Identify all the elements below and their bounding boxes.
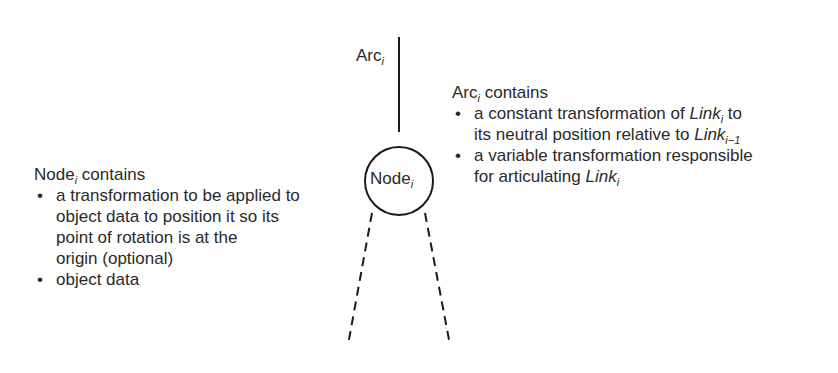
arc-label-text: Arc bbox=[356, 46, 382, 65]
arc-description: Arci contains a constant transformation … bbox=[452, 82, 753, 187]
arc-item2-link-sub: i bbox=[617, 176, 619, 188]
arc-description-item: a variable transformation responsible fo… bbox=[452, 145, 753, 187]
arc-description-list: a constant transformation of Linki to it… bbox=[452, 103, 753, 187]
arc-item2-line2-prefix: for articulating bbox=[474, 167, 586, 186]
node-title-text: Node bbox=[34, 165, 75, 184]
arc-item1-line1-suffix: to bbox=[723, 104, 742, 123]
arc-title-text: Arc bbox=[452, 83, 478, 102]
node-label: Nodei bbox=[370, 169, 413, 189]
node-description-item: a transformation to be applied to object… bbox=[34, 185, 300, 269]
arc-item1-line1-prefix: a constant transformation of bbox=[474, 104, 689, 123]
child-arc-left-dashed bbox=[348, 213, 372, 345]
node-label-text: Node bbox=[370, 169, 411, 188]
node-description-title: Nodei contains bbox=[34, 164, 300, 185]
arc-description-item: a constant transformation of Linki to it… bbox=[452, 103, 753, 145]
arc-item1-line2-link: Link bbox=[694, 125, 725, 144]
node-item2-line1: object data bbox=[56, 270, 139, 289]
arc-description-title: Arci contains bbox=[452, 82, 753, 103]
child-arc-right-dashed bbox=[425, 213, 450, 345]
node-item1-line4: origin (optional) bbox=[56, 249, 173, 268]
node-title-suffix: contains bbox=[77, 165, 145, 184]
node-item1-line1: a transformation to be applied to bbox=[56, 186, 300, 205]
arc-label-subscript: i bbox=[382, 55, 384, 67]
arc-item2-link: Link bbox=[586, 167, 617, 186]
arc-item1-link: Link bbox=[689, 104, 720, 123]
node-item1-line3: point of rotation is at the bbox=[56, 228, 237, 247]
arc-item1-line2-prefix: its neutral position relative to bbox=[474, 125, 694, 144]
arc-item2-line1: a variable transformation responsible bbox=[474, 146, 753, 165]
node-description: Nodei contains a transformation to be ap… bbox=[34, 164, 300, 290]
node-description-list: a transformation to be applied to object… bbox=[34, 185, 300, 290]
node-label-subscript: i bbox=[411, 178, 413, 190]
node-item1-line2: object data to position it so its bbox=[56, 207, 279, 226]
node-description-item: object data bbox=[34, 269, 300, 290]
arc-label: Arci bbox=[356, 45, 384, 66]
arc-title-suffix: contains bbox=[480, 83, 548, 102]
